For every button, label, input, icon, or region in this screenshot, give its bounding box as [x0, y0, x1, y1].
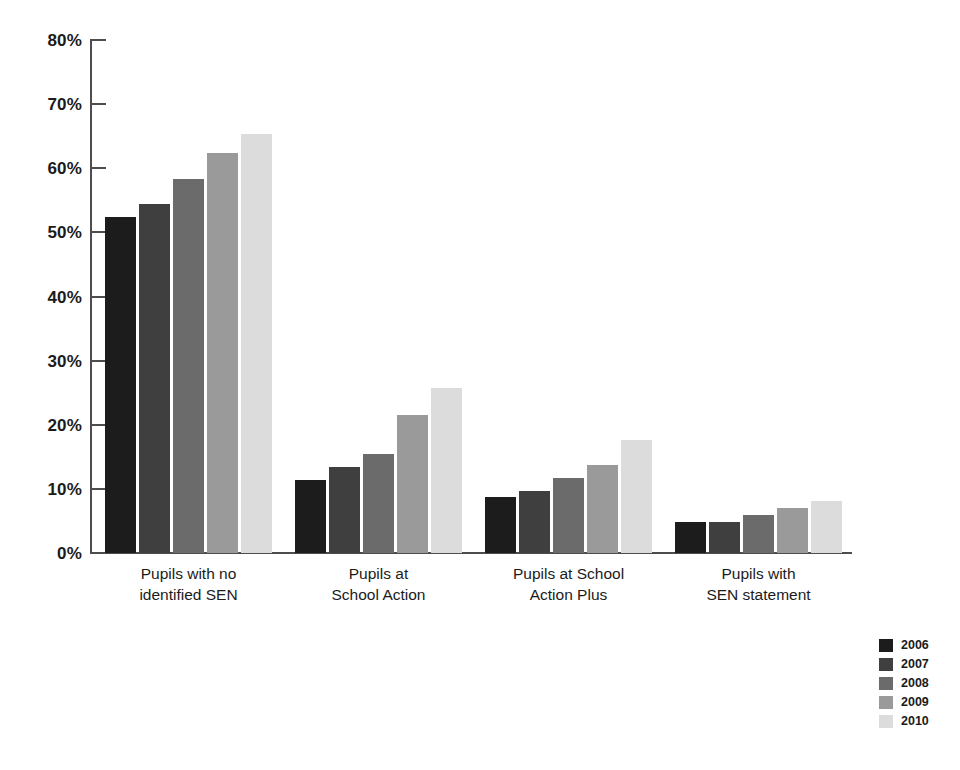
legend-label: 2008 — [901, 677, 929, 690]
bar — [587, 465, 618, 553]
legend-item[interactable]: 2009 — [879, 693, 929, 712]
y-axis-tick-label: 60% — [8, 160, 82, 177]
legend-item[interactable]: 2007 — [879, 655, 929, 674]
bar — [207, 153, 238, 553]
category-label: Pupils with noidentified SEN — [79, 563, 299, 605]
y-axis-tick — [90, 488, 106, 490]
bar — [777, 508, 808, 553]
category-label-line: SEN statement — [649, 584, 869, 605]
legend-label: 2007 — [901, 658, 929, 671]
y-axis-tick — [90, 231, 106, 233]
y-axis-tick-label: 40% — [8, 288, 82, 305]
bar — [519, 491, 550, 553]
legend-swatch-icon — [879, 639, 893, 652]
legend-label: 2009 — [901, 696, 929, 709]
bar — [709, 522, 740, 553]
bar — [173, 179, 204, 553]
y-axis-tick — [90, 167, 106, 169]
legend-item[interactable]: 2010 — [879, 712, 929, 731]
bar — [675, 522, 706, 553]
bar — [485, 497, 516, 553]
y-axis-tick-label: 80% — [8, 32, 82, 49]
category-label-line: identified SEN — [79, 584, 299, 605]
y-axis-tick — [90, 360, 106, 362]
y-axis-tick-label: 30% — [8, 352, 82, 369]
legend-item[interactable]: 2008 — [879, 674, 929, 693]
bar — [397, 415, 428, 553]
category-label-line: Pupils with no — [79, 563, 299, 584]
legend-swatch-icon — [879, 696, 893, 709]
bar-chart: 0%10%20%30%40%50%60%70%80% Pupils with n… — [0, 0, 960, 770]
y-axis-tick-label: 50% — [8, 224, 82, 241]
category-label: Pupils atSchool Action — [269, 563, 489, 605]
category-label-line: School Action — [269, 584, 489, 605]
legend-swatch-icon — [879, 658, 893, 671]
legend-label: 2010 — [901, 715, 929, 728]
y-axis-tick-label: 70% — [8, 96, 82, 113]
legend-label: 2006 — [901, 639, 929, 652]
bar — [139, 204, 170, 553]
category-label-line: Pupils with — [649, 563, 869, 584]
category-label: Pupils at SchoolAction Plus — [459, 563, 679, 605]
legend-item[interactable]: 2006 — [879, 636, 929, 655]
bar — [431, 388, 462, 553]
legend-swatch-icon — [879, 677, 893, 690]
bar — [241, 134, 272, 553]
bar — [105, 217, 136, 553]
bar — [621, 440, 652, 554]
y-axis-tick-label: 10% — [8, 480, 82, 497]
category-label: Pupils withSEN statement — [649, 563, 869, 605]
bar — [553, 478, 584, 553]
category-label-line: Pupils at — [269, 563, 489, 584]
bar — [743, 515, 774, 553]
bar — [363, 454, 394, 553]
y-axis-tick — [90, 424, 106, 426]
bar — [811, 501, 842, 553]
category-label-line: Action Plus — [459, 584, 679, 605]
y-axis-tick — [90, 39, 106, 41]
y-axis-tick-label: 0% — [8, 545, 82, 562]
bar — [329, 467, 360, 553]
legend-swatch-icon — [879, 715, 893, 728]
y-axis-tick-label: 20% — [8, 416, 82, 433]
legend: 20062007200820092010 — [879, 636, 929, 731]
y-axis-tick — [90, 296, 106, 298]
y-axis-tick — [90, 103, 106, 105]
category-label-line: Pupils at School — [459, 563, 679, 584]
bar — [295, 480, 326, 553]
